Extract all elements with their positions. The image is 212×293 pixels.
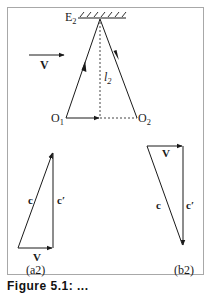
ceiling-support (78, 12, 126, 18)
anchor-label: E2 (65, 11, 77, 26)
velocity-label: V (40, 59, 49, 71)
a2-c-prime-label: c′ (57, 195, 65, 206)
a2-c-label: c (28, 195, 33, 206)
b2-panel-label: (b2) (174, 264, 194, 276)
b2-v-label: V (162, 148, 170, 159)
vector-triangle-b2 (147, 146, 183, 245)
a2-panel-label: (a2) (26, 264, 45, 276)
right-point-label: O2 (138, 112, 151, 127)
left-point-label: O1 (51, 112, 64, 127)
length-label: l2 (104, 71, 112, 86)
b2-c-label: c (156, 200, 161, 211)
a2-v-label: V (33, 252, 41, 263)
b2-c-prime-label: c′ (186, 200, 194, 211)
figure-caption: Figure 5.1: ... (7, 279, 89, 293)
path-down-line (100, 19, 137, 118)
vector-triangle-a2 (18, 153, 53, 248)
